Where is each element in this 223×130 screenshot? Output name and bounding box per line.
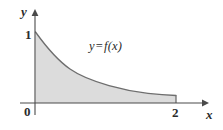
x-axis-label: x (206, 108, 213, 121)
x-tick-label-2: 2 (172, 106, 179, 119)
x-axis-arrowhead-icon (202, 100, 209, 107)
plot-canvas (0, 0, 223, 130)
y-axis-label: y (21, 5, 27, 18)
y-tick-label-1: 1 (25, 28, 32, 41)
y-axis-arrowhead-icon (32, 9, 39, 16)
curve-equation-label: y=f(x) (89, 40, 122, 53)
area-under-curve-figure: y x 1 0 2 y=f(x) (0, 0, 223, 130)
curve-label-close-paren: ) (118, 39, 122, 53)
origin-tick-label: 0 (24, 105, 31, 118)
curve-label-y: y (89, 39, 95, 53)
curve-label-equals: = (95, 39, 104, 53)
